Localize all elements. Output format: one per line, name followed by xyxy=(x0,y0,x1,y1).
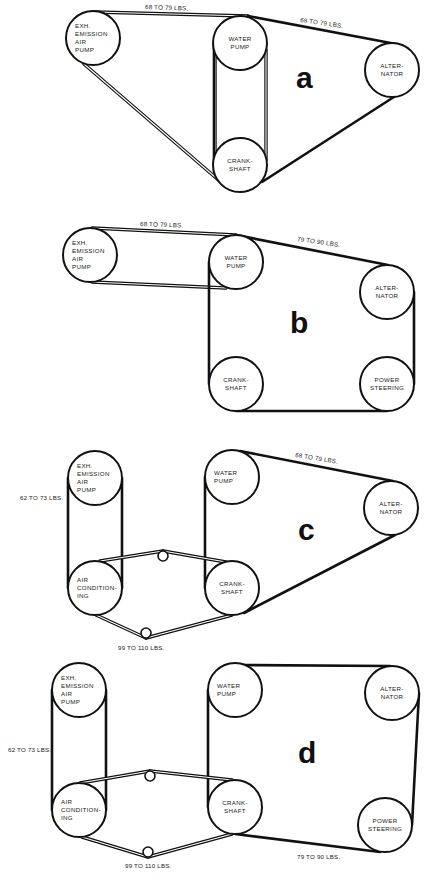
belt-segment-inner xyxy=(92,282,226,288)
pulley-label: NATOR xyxy=(381,70,404,77)
pulley-label: CONDITION- xyxy=(77,584,117,591)
pulley-alt: ALTER-NATOR xyxy=(360,265,414,319)
pulley-crank: CRANK-SHAFT xyxy=(209,357,263,411)
pulley-label: CRANK- xyxy=(222,799,248,806)
pulley-label: AIR xyxy=(61,690,72,697)
pulley-label: SHAFT xyxy=(221,588,243,595)
pulley-water: WATERPUMP xyxy=(205,450,259,504)
pulley-label: NATOR xyxy=(380,508,403,515)
pulley-label: ALTER- xyxy=(379,500,402,507)
pulley-label: AIR xyxy=(61,798,72,805)
tension-label: 79 TO 90 LBS. xyxy=(297,235,341,248)
tension-label: 68 TO 79 LBS. xyxy=(145,3,189,12)
pulley-label: PUMP xyxy=(217,690,236,697)
belt-segment xyxy=(262,95,397,182)
belt-segment xyxy=(235,834,380,852)
diagram-c-pulleys: EXH.EMISSIONAIRPUMPAIRCONDITION-INGWATER… xyxy=(68,450,418,638)
tension-label: 99 TO 110 LBS. xyxy=(125,862,172,869)
pulley-label: AIR xyxy=(77,576,88,583)
pulley-label: SHAFT xyxy=(224,807,246,814)
pulley-crank: CRANK-SHAFT xyxy=(213,138,267,192)
pulley-label: PUMP xyxy=(61,698,80,705)
pulley-exh: EXH.EMISSIONAIRPUMP xyxy=(63,228,117,282)
belt-segment-inner xyxy=(150,771,232,780)
pulley-label: STEERING xyxy=(370,384,404,391)
pulley-label: EXH. xyxy=(77,462,93,469)
pulley-label: NATOR xyxy=(376,292,399,299)
pulley-label: AIR xyxy=(77,478,88,485)
belt-segment-inner xyxy=(148,834,232,857)
pulley-label: SHAFT xyxy=(225,384,247,391)
pulley-label: CRANK- xyxy=(227,157,253,164)
pulley-label: EXH. xyxy=(72,239,88,246)
pulley-label: EMISSION xyxy=(75,30,108,37)
diagram-letter: b xyxy=(290,306,308,339)
pulley-crank: CRANK-SHAFT xyxy=(205,561,259,615)
pulley-label: PUMP xyxy=(230,43,249,50)
pulley-label: WATER xyxy=(214,469,237,476)
pulley-water: WATERPUMP xyxy=(209,235,263,289)
belt-segment xyxy=(412,693,419,825)
pulley-exh: EXH.EMISSIONAIRPUMP xyxy=(68,451,122,505)
tension-label: 68 TO 79 LBS. xyxy=(140,220,184,229)
labels-layer: 68 TO 79 LBS.68 TO 79 LBS.a68 TO 79 LBS.… xyxy=(8,3,344,869)
pulley-label: CRANK- xyxy=(219,580,245,587)
pulley-label: EMISSION xyxy=(72,247,105,254)
pulley-label: AIR xyxy=(72,255,83,262)
pulley-label: POWER xyxy=(375,376,400,383)
diagram-letter: c xyxy=(298,513,315,546)
pulley-label: PUMP xyxy=(214,477,233,484)
tension-label: 99 TO 110 LBS. xyxy=(118,644,165,651)
pulley-label: NATOR xyxy=(381,693,404,700)
pulley-ac: AIRCONDITION-ING xyxy=(52,783,106,837)
belt-segment-inner xyxy=(84,64,222,183)
pulley-exh: EXH.EMISSIONAIRPUMP xyxy=(52,663,106,717)
pulley-label: EMISSION xyxy=(77,470,110,477)
pulley-label: ING xyxy=(61,814,73,821)
belt-segment-inner xyxy=(82,837,148,857)
idler-pulley xyxy=(145,771,155,781)
pulley-label: ING xyxy=(77,592,89,599)
belt-segment-inner xyxy=(96,615,146,638)
belt-segment-inner xyxy=(163,551,226,562)
pulley-alt: ALTER-NATOR xyxy=(364,481,418,535)
pulley-label: ALTER- xyxy=(380,62,403,69)
pulley-label: ALTER- xyxy=(380,685,403,692)
pulley-power: POWERSTEERING xyxy=(358,798,412,852)
pulley-label: PUMP xyxy=(226,262,245,269)
belt-segment-inner xyxy=(92,228,236,235)
pulley-water: WATERPUMP xyxy=(208,663,262,717)
pulley-alt: ALTER-NATOR xyxy=(365,43,419,97)
pulley-ac: AIRCONDITION-ING xyxy=(68,561,122,615)
pulley-exh: EXH.EMISSIONAIRPUMP xyxy=(66,11,120,65)
pulley-label: CRANK- xyxy=(223,376,249,383)
pulley-label: PUMP xyxy=(72,263,91,270)
pulley-label: WATER xyxy=(217,682,240,689)
pulley-label: SHAFT xyxy=(229,165,251,172)
pulley-crank: CRANK-SHAFT xyxy=(208,780,262,834)
pulley-alt: ALTER-NATOR xyxy=(365,666,419,720)
idler-pulley xyxy=(141,628,151,638)
pulley-label: EXH. xyxy=(61,674,77,681)
diagram-letter: d xyxy=(298,736,316,769)
pulley-label: PUMP xyxy=(77,486,96,493)
pulley-label: EXH. xyxy=(75,22,91,29)
pulley-label: POWER xyxy=(373,817,398,824)
pulley-label: WATER xyxy=(228,35,251,42)
pulley-label: PUMP xyxy=(75,46,94,53)
pulley-label: CONDITION- xyxy=(61,806,101,813)
pulley-label: AIR xyxy=(75,38,86,45)
tension-label: 79 TO 90 LBS. xyxy=(297,853,340,860)
belt-segment-inner xyxy=(146,615,232,638)
idler-pulley xyxy=(143,847,153,857)
tension-label: 62 TO 73 LBS. xyxy=(8,746,51,753)
tension-label: 62 TO 73 LBS. xyxy=(20,494,63,501)
diagram-b-pulleys: EXH.EMISSIONAIRPUMPWATERPUMPALTER-NATORC… xyxy=(63,228,414,411)
pulley-label: EMISSION xyxy=(61,682,94,689)
belt-segment-inner xyxy=(100,551,163,561)
pulley-label: ALTER- xyxy=(375,284,398,291)
pulley-label: WATER xyxy=(224,254,247,261)
belt-segment xyxy=(244,535,395,613)
belt-tension-diagram-sheet: EXH.EMISSIONAIRPUMPWATERPUMPCRANK-SHAFTA… xyxy=(0,0,431,880)
belt-segment xyxy=(240,665,390,666)
